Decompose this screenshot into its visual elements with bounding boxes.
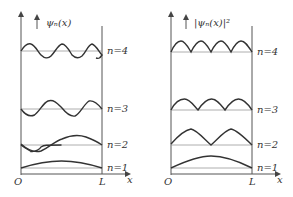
right-wave-n4: [171, 41, 252, 52]
left-wave-n3: [21, 101, 102, 117]
left-wave-n1: [21, 161, 102, 168]
left-y-label: ψₙ(x): [46, 17, 71, 28]
right-end-label: L: [248, 176, 256, 187]
left-origin-label: O: [14, 176, 22, 187]
right-label-n4: n=4: [257, 46, 278, 57]
right-y-label: |ψₙ(x)|²: [194, 17, 230, 29]
left-end-label: L: [98, 176, 106, 187]
right-label-n1: n=1: [257, 162, 278, 173]
left-label-n1: n=1: [107, 162, 128, 173]
left-label-n2: n=2: [107, 139, 128, 150]
right-wave-n2: [171, 129, 252, 145]
wavefunction-diagram: ψₙ(x) n=1 n=2 n=3 n=4 O L x |ψₙ(x)|²: [0, 0, 293, 197]
left-wave-n2-curve: [21, 136, 102, 152]
left-x-label: x: [127, 174, 133, 185]
left-panel-wavefunction: ψₙ(x) n=1 n=2 n=3 n=4 O L x: [14, 14, 133, 187]
right-label-n2: n=2: [257, 139, 278, 150]
left-label-n4: n=4: [107, 45, 128, 56]
left-label-n3: n=3: [107, 103, 128, 114]
right-wave-n3: [171, 99, 252, 110]
right-origin-label: O: [164, 176, 172, 187]
right-panel-probability: |ψₙ(x)|² n=1 n=2 n=3 n=4 O L x: [164, 14, 283, 187]
right-x-label: x: [277, 174, 283, 185]
right-wave-n1: [171, 156, 252, 168]
right-label-n3: n=3: [257, 104, 278, 115]
